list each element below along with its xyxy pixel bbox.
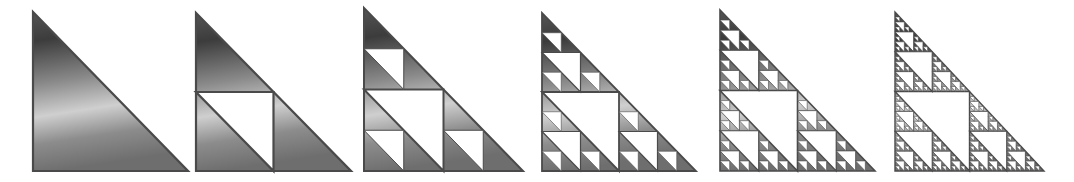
sierpinski-iteration-0 xyxy=(33,12,188,171)
sierpinski-figure xyxy=(0,0,1074,182)
sierpinski-iteration-3 xyxy=(542,13,696,171)
outer-triangle xyxy=(33,12,188,171)
sierpinski-iteration-1 xyxy=(196,13,351,171)
sierpinski-iteration-2 xyxy=(364,8,523,171)
sierpinski-iteration-5 xyxy=(895,12,1044,171)
sierpinski-iteration-4 xyxy=(720,10,875,171)
